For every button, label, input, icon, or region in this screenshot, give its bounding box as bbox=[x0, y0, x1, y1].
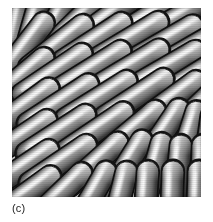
rod-packing-render bbox=[12, 8, 201, 197]
figure-root: (c) bbox=[0, 0, 213, 222]
figure-panel-image bbox=[12, 8, 201, 197]
panel-caption-label: (c) bbox=[12, 201, 25, 215]
